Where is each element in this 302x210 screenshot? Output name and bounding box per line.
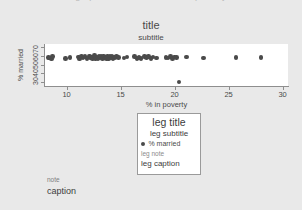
- y-axis-title-label: % married: [16, 49, 23, 81]
- x-axis-line: [44, 86, 289, 87]
- x-axis-tick-label: 25: [224, 90, 232, 99]
- filled-circle-icon: [141, 142, 145, 146]
- legend-key-label: % married: [148, 139, 180, 149]
- y-axis-tick-labels: 7060504030: [29, 44, 40, 86]
- legend-subtitle: leg subtitle: [138, 128, 200, 139]
- scatter-point: [174, 55, 179, 60]
- scatter-point: [184, 55, 189, 60]
- graph-canvas: graph — % married vs % in poverty title …: [0, 0, 302, 210]
- legend-caption: leg caption: [138, 158, 200, 169]
- legend-note: leg note: [138, 149, 200, 158]
- scatter-point: [201, 56, 206, 61]
- x-axis-tick-label: 20: [170, 90, 178, 99]
- scatter-point: [50, 54, 55, 59]
- y-axis-tick-label: 30: [31, 77, 38, 85]
- scatter-point: [68, 55, 73, 60]
- scatter-point: [116, 55, 121, 60]
- graph-subtitle: subtitle: [0, 33, 302, 42]
- x-axis-title: % in poverty: [45, 100, 288, 109]
- y-axis-tick: [41, 65, 44, 66]
- graph-note: note: [47, 176, 60, 183]
- x-axis-tick-label: 10: [62, 90, 70, 99]
- graph-caption: caption: [47, 186, 76, 196]
- y-axis-tick: [41, 73, 44, 74]
- legend-box: leg title leg subtitle % married leg not…: [137, 113, 201, 175]
- graph-title: title: [0, 19, 302, 31]
- scatter-point: [125, 55, 130, 60]
- scatter-point: [259, 55, 264, 60]
- y-axis-tick: [41, 47, 44, 48]
- scatter-point: [177, 80, 182, 85]
- x-axis-tick-label: 15: [116, 90, 124, 99]
- legend-key-row: % married: [138, 139, 200, 149]
- scatter-points-layer: [45, 44, 288, 86]
- plot-panel: [45, 44, 288, 86]
- y-axis-title: % married: [14, 44, 25, 86]
- scatter-point: [154, 56, 159, 61]
- y-axis-tick: [41, 82, 44, 83]
- y-axis-tick-label: 70: [31, 45, 38, 53]
- y-axis-line: [44, 44, 45, 86]
- y-axis-tick-label: 50: [31, 61, 38, 69]
- clipped-window-heading: graph — % married vs % in poverty: [0, 0, 302, 1]
- y-axis-tick-label: 60: [31, 53, 38, 61]
- scatter-point: [234, 55, 239, 60]
- x-axis-tick-label: 30: [278, 90, 286, 99]
- legend-title: leg title: [138, 116, 200, 128]
- y-axis-tick: [41, 56, 44, 57]
